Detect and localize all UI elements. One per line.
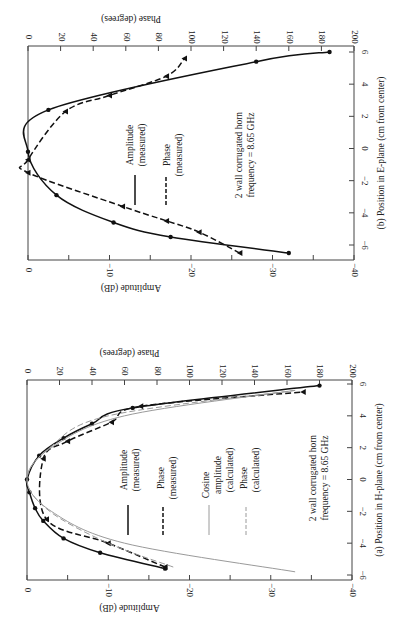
- legend-amp-label-2: (measured): [131, 449, 142, 492]
- position-tick-label: −6: [360, 240, 370, 250]
- legend-phase-label: Phase: [162, 144, 172, 166]
- phase-marker: [120, 203, 126, 209]
- phase-marker: [237, 250, 243, 256]
- phase-marker: [164, 73, 170, 79]
- legend-cos-label-2: amplitude: [213, 456, 223, 494]
- phase-marker: [138, 403, 144, 409]
- phase-tick-label: 40: [88, 367, 98, 377]
- amplitude-tick-label: −20: [187, 263, 197, 278]
- legend-phase-label-2: (measured): [174, 134, 185, 177]
- legend-phase-calc-label: Phase: [239, 467, 249, 489]
- amplitude-marker: [111, 220, 115, 224]
- phase-marker: [181, 55, 187, 61]
- position-tick-label: 0: [358, 477, 368, 482]
- position-tick-label: 2: [358, 445, 368, 450]
- position-axis-caption: (b) Position in E-plane (cm from center): [376, 76, 387, 229]
- chart-panel-b: 0204060801001201401601802000−10−20−30−40…: [19, 13, 387, 293]
- phase-tick-label: 60: [122, 33, 132, 43]
- phase-axis-title: Phase (degrees): [101, 13, 161, 24]
- phase-tick-label: 140: [252, 30, 262, 44]
- phase-marker: [105, 540, 111, 546]
- phase-tick-label: 140: [250, 364, 260, 378]
- phase-tick-label: 200: [348, 364, 358, 378]
- position-tick-label: 4: [358, 414, 368, 419]
- phase-marker: [196, 229, 202, 235]
- amplitude-tick-label: −40: [350, 263, 360, 278]
- position-tick-label: −2: [358, 507, 368, 517]
- amplitude-tick-label: 0: [24, 268, 34, 273]
- amplitude-tick-label: −30: [267, 583, 277, 598]
- phase-marker: [300, 389, 306, 395]
- phase-tick-label: 80: [154, 33, 164, 43]
- amplitude-tick-label: −40: [348, 583, 358, 598]
- amplitude-tick-label: −30: [268, 263, 278, 278]
- chart-panel-a: 0204060801001201401601802000−10−20−30−40…: [23, 347, 385, 613]
- amplitude-marker: [98, 551, 102, 555]
- figure-canvas: 0204060801001201401601802000−10−20−30−40…: [0, 0, 405, 622]
- position-tick-label: 2: [360, 114, 370, 119]
- legend: Amplitude(measured)Phase(measured)Cosine…: [119, 435, 330, 535]
- amplitude-marker: [317, 383, 321, 387]
- note-horn: 2 wall corrugated horn: [308, 435, 318, 522]
- position-tick-label: −2: [360, 176, 370, 186]
- phase-tick-label: 80: [153, 367, 163, 377]
- phase-tick-label: 0: [24, 35, 34, 40]
- phase-tick-label: 200: [350, 30, 360, 44]
- position-tick-label: 0: [360, 146, 370, 151]
- phase-tick-label: 0: [23, 369, 33, 374]
- phase-tick-label: 20: [57, 33, 67, 43]
- phase-tick-label: 60: [120, 367, 130, 377]
- legend-cos-label-3: (calculated): [225, 448, 236, 493]
- amplitude-axis-title: Amplitude (dB): [99, 602, 159, 613]
- amplitude-marker: [287, 251, 291, 255]
- note-frequency: frequency = 8.65 GHz: [320, 435, 330, 520]
- legend-amp-label-2: (measured): [137, 124, 148, 167]
- legend-phase-label: Phase: [156, 467, 166, 489]
- phase-tick-label: 160: [283, 364, 293, 378]
- amplitude-marker: [46, 108, 50, 112]
- position-tick-label: −6: [358, 570, 368, 580]
- legend-phase-label-2: (measured): [168, 457, 179, 500]
- phase-axis-title: Phase (degrees): [100, 347, 160, 358]
- phase-tick-label: 180: [317, 30, 327, 44]
- phase-tick-label: 40: [89, 33, 99, 43]
- phase-tick-label: 20: [55, 367, 65, 377]
- note-horn: 2 wall corrugated horn: [234, 112, 244, 199]
- note-frequency: frequency = 8.65 GHz: [246, 112, 256, 197]
- position-tick-label: 4: [360, 82, 370, 87]
- phase-tick-label: 120: [218, 364, 228, 378]
- phase-tick-label: 180: [315, 364, 325, 378]
- amplitude-marker: [254, 59, 258, 63]
- phase-tick-label: 100: [185, 364, 195, 378]
- amplitude-marker: [327, 50, 331, 54]
- position-tick-label: −4: [358, 538, 368, 548]
- amplitude-tick-label: 0: [23, 588, 33, 593]
- amplitude-marker: [168, 235, 172, 239]
- amplitude-axis-title: Amplitude (dB): [101, 282, 161, 293]
- position-axis-caption: (a) Position in H-plane (cm from center): [374, 403, 385, 557]
- phase-tick-label: 100: [187, 30, 197, 44]
- position-tick-label: −4: [360, 208, 370, 218]
- amplitude-marker: [26, 150, 30, 154]
- phase-tick-label: 120: [220, 30, 230, 44]
- amplitude-marker: [61, 536, 65, 540]
- phase-marker: [164, 218, 170, 224]
- amplitude-tick-label: −10: [104, 583, 114, 598]
- position-tick-label: 6: [358, 382, 368, 387]
- legend: Amplitude(measured)Phase(measured)2 wall…: [125, 112, 256, 205]
- amplitude-tick-label: −10: [105, 263, 115, 278]
- legend-phase-calc-label-2: (calculated): [251, 448, 262, 493]
- amplitude-marker: [33, 506, 37, 510]
- legend-amp-label: Amplitude: [119, 450, 129, 491]
- legend-amp-label: Amplitude: [125, 125, 135, 166]
- amplitude-marker: [54, 193, 58, 197]
- amplitude-tick-label: −20: [185, 583, 195, 598]
- legend-cos-label: Cosine: [201, 472, 211, 498]
- phase-tick-label: 160: [285, 30, 295, 44]
- position-tick-label: 6: [360, 50, 370, 55]
